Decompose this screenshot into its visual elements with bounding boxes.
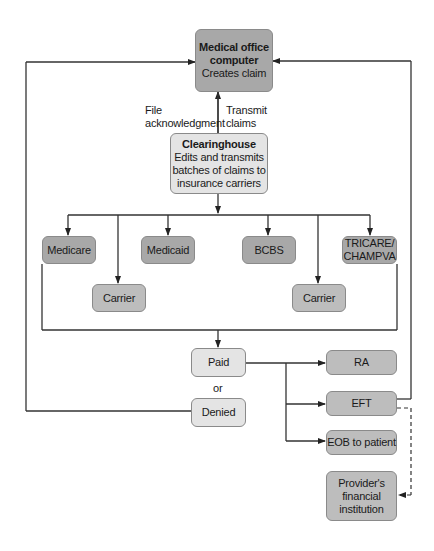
node-label: RA bbox=[354, 356, 369, 369]
node-medical-office-computer: Medical office computer Creates claim bbox=[195, 29, 273, 92]
node-title: Clearinghouse bbox=[182, 138, 256, 151]
node-label: Medicaid bbox=[147, 244, 189, 257]
node-subtitle: Creates claim bbox=[202, 67, 267, 80]
node-label: Medicare bbox=[47, 244, 91, 257]
node-line: CHAMPVA bbox=[343, 250, 395, 263]
node-label: BCBS bbox=[254, 244, 283, 257]
node-title-line1: Medical office bbox=[199, 41, 269, 54]
node-title-line2: computer bbox=[210, 54, 259, 67]
node-bcbs: BCBS bbox=[242, 236, 296, 264]
node-label: Carrier bbox=[303, 292, 335, 305]
node-denied: Denied bbox=[191, 398, 246, 427]
edge-label-file-acknowledgment: File acknowledgment bbox=[145, 104, 225, 130]
node-eft: EFT bbox=[326, 391, 397, 416]
node-providers-financial-institution: Provider's financial institution bbox=[326, 471, 397, 521]
node-line: insurance carriers bbox=[177, 177, 261, 190]
edge-label-line: claims bbox=[226, 117, 267, 130]
node-line: batches of claims to bbox=[172, 164, 265, 177]
node-line: Edits and transmits bbox=[174, 151, 264, 164]
edge-label-line: acknowledgment bbox=[145, 117, 225, 130]
node-eob-to-patient: EOB to patient bbox=[326, 430, 397, 455]
node-carrier-left: Carrier bbox=[92, 284, 146, 312]
node-paid: Paid bbox=[191, 348, 246, 377]
node-label: Denied bbox=[202, 406, 236, 419]
node-medicaid: Medicaid bbox=[141, 236, 195, 264]
node-line: Provider's bbox=[338, 477, 385, 490]
node-clearinghouse: Clearinghouse Edits and transmits batche… bbox=[170, 133, 268, 194]
edge-label-line: File bbox=[145, 104, 225, 117]
node-label: EFT bbox=[351, 397, 371, 410]
node-line: TRICARE/ bbox=[345, 237, 395, 250]
node-carrier-right: Carrier bbox=[292, 284, 346, 312]
node-ra: RA bbox=[326, 350, 397, 375]
node-label: Paid bbox=[208, 356, 229, 369]
node-label: Carrier bbox=[103, 292, 135, 305]
node-line: financial bbox=[342, 490, 381, 503]
edge-label-line: Transmit bbox=[226, 104, 267, 117]
node-tricare-champva: TRICARE/ CHAMPVA bbox=[342, 236, 397, 264]
node-label: EOB to patient bbox=[327, 436, 396, 449]
node-medicare: Medicare bbox=[42, 236, 96, 264]
edge-label-transmit-claims: Transmit claims bbox=[226, 104, 267, 130]
or-label: or bbox=[213, 382, 222, 395]
node-line: institution bbox=[339, 503, 383, 516]
